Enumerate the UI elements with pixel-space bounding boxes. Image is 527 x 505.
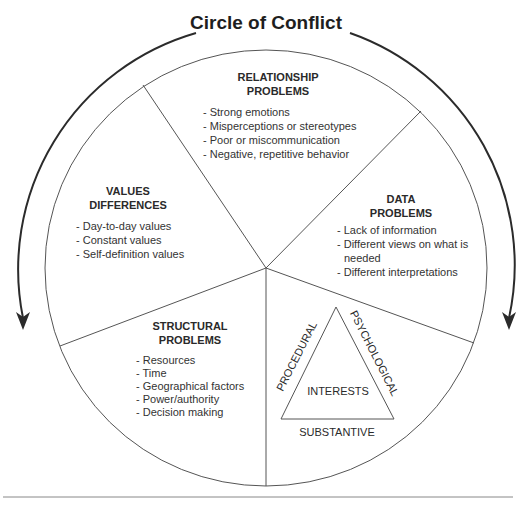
- data-item: - Different views on what is: [337, 238, 469, 250]
- data-item: - Different interpretations: [337, 266, 458, 278]
- data-heading-1: DATA: [387, 193, 416, 205]
- relationship-item: - Strong emotions: [203, 106, 290, 118]
- section-relationship: RELATIONSHIP PROBLEMS - Strong emotions …: [203, 71, 357, 160]
- relationship-item: - Negative, repetitive behavior: [203, 148, 349, 160]
- data-item: - Lack of information: [337, 224, 437, 236]
- section-values: VALUES DIFFERENCES - Day-to-day values -…: [76, 185, 185, 260]
- structural-heading-1: STRUCTURAL: [152, 320, 227, 332]
- structural-item: - Geographical factors: [136, 380, 245, 392]
- values-heading-2: DIFFERENCES: [89, 199, 167, 211]
- section-interests: INTERESTS PROCEDURAL PSYCHOLOGICAL SUBST…: [274, 307, 402, 438]
- circle-of-conflict-diagram: Circle of Conflict RELATIONSHIP PROBLEMS…: [0, 0, 527, 505]
- values-item: - Constant values: [76, 234, 162, 246]
- relationship-heading-1: RELATIONSHIP: [237, 71, 318, 83]
- section-data: DATA PROBLEMS - Lack of information - Di…: [337, 193, 469, 278]
- data-heading-2: PROBLEMS: [370, 207, 432, 219]
- relationship-heading-2: PROBLEMS: [247, 85, 309, 97]
- values-item: - Day-to-day values: [76, 220, 172, 232]
- substantive-label: SUBSTANTIVE: [299, 426, 375, 438]
- section-structural: STRUCTURAL PROBLEMS - Resources - Time -…: [136, 320, 245, 418]
- diagram-title: Circle of Conflict: [190, 12, 343, 33]
- values-heading-1: VALUES: [106, 185, 150, 197]
- structural-heading-2: PROBLEMS: [159, 334, 221, 346]
- structural-item: - Power/authority: [136, 393, 220, 405]
- data-item: needed: [344, 252, 381, 264]
- values-item: - Self-definition values: [76, 248, 185, 260]
- relationship-item: - Poor or miscommunication: [203, 134, 340, 146]
- structural-item: - Resources: [136, 354, 196, 366]
- structural-item: - Time: [136, 367, 167, 379]
- relationship-item: - Misperceptions or stereotypes: [203, 120, 357, 132]
- interests-label: INTERESTS: [307, 385, 369, 397]
- structural-item: - Decision making: [136, 406, 223, 418]
